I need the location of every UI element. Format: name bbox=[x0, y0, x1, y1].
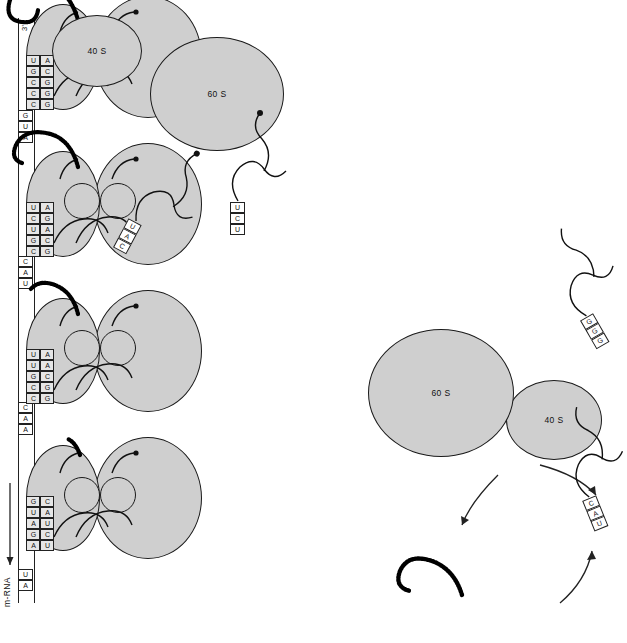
mrna-5prime-base-letter: A bbox=[23, 582, 28, 589]
released-polypeptide bbox=[398, 467, 518, 607]
initiation-arrow-icon bbox=[560, 551, 596, 603]
polypeptide-chain-1 bbox=[68, 439, 80, 455]
free-trna-3-body bbox=[546, 388, 627, 531]
free-trna-4[interactable]: GGG bbox=[532, 207, 627, 350]
free-trna-2-body bbox=[230, 105, 290, 235]
mrna-5prime-base-letter: U bbox=[23, 571, 28, 578]
ribosome-1[interactable]: AGAUGUCUAC bbox=[20, 433, 200, 565]
ribosome-2[interactable]: CCGUUGGCAA bbox=[20, 286, 200, 418]
mrna-5prime-base: U bbox=[18, 569, 33, 580]
mrna-5prime-base: A bbox=[18, 580, 33, 591]
ribosome-internals-1 bbox=[20, 433, 200, 565]
free-trna-3[interactable]: UAC bbox=[546, 388, 627, 531]
free-large-subunit-top-label: 60 S bbox=[207, 89, 226, 99]
free-small-subunit-top[interactable]: 40 S bbox=[52, 15, 142, 87]
free-large-subunit-bottom[interactable]: 60 S bbox=[368, 329, 514, 457]
free-trna-2[interactable]: UCU bbox=[230, 105, 290, 235]
mrna-spacer1-base-letter: A bbox=[23, 426, 28, 433]
direction-arrow-icon bbox=[7, 483, 14, 565]
free-trna-4-body bbox=[532, 207, 627, 350]
ribosome-internals-2 bbox=[20, 286, 200, 418]
free-small-subunit-top-label: 40 S bbox=[87, 46, 106, 56]
mrna-spacer3-base-letter: U bbox=[23, 123, 28, 130]
free-large-subunit-bottom-label: 60 S bbox=[431, 388, 450, 398]
